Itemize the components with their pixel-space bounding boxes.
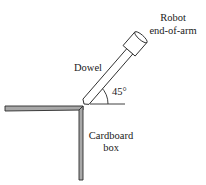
dowel-label: Dowel	[74, 62, 102, 73]
box-label-line1: Cardboard	[89, 130, 134, 141]
box-top-wall	[5, 106, 83, 111]
box-side-wall	[79, 106, 83, 180]
robot-label-line2: end-of-arm	[149, 25, 196, 36]
robot-label-line1: Robot	[160, 12, 186, 23]
angle-label: 45°	[112, 86, 127, 97]
diagram-canvas: Robot end-of-arm Dowel 45° Cardboard box	[0, 0, 206, 185]
box-label-line2: box	[103, 142, 120, 153]
cardboard-box	[5, 106, 83, 180]
